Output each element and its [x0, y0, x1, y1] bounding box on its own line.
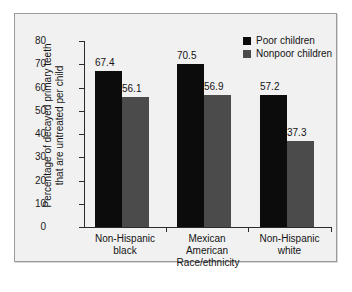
bar-nonpoor-non-hispanic-white[interactable] — [287, 141, 314, 227]
x-category-label-mexican-american: Mexican American — [166, 233, 248, 256]
value-label-nonpoor-non-hispanic-white: 37.3 — [287, 128, 306, 138]
y-axis-title-line-1: Percentage of decayed primary teeth — [42, 31, 54, 221]
x-category-label-non-hispanic-white: Non-Hispanic white — [248, 233, 331, 256]
x-category-line-1: Non-Hispanic — [84, 233, 166, 245]
y-tick-mark-0 — [79, 227, 84, 228]
y-axis-title: Percentage of decayed primary teeth that… — [42, 31, 65, 221]
y-tick-mark-10 — [79, 204, 84, 205]
y-axis-title-line-2: that are untreated per child — [53, 31, 65, 221]
y-tick-mark-30 — [79, 157, 84, 158]
y-tick-mark-40 — [79, 134, 84, 135]
y-tick-mark-60 — [79, 88, 84, 89]
figure: 80 70 60 50 40 30 20 10 0 67.4 56.1 70.5… — [0, 0, 352, 292]
x-tick-mark-2 — [248, 227, 249, 232]
bar-poor-mexican-american[interactable] — [177, 64, 204, 227]
legend-item-poor-children[interactable]: Poor children — [243, 35, 332, 47]
x-category-line-2: white — [248, 245, 331, 257]
bar-poor-non-hispanic-black[interactable] — [95, 71, 122, 227]
x-tick-mark-1 — [166, 227, 167, 232]
value-label-nonpoor-mexican-american: 56.9 — [204, 82, 223, 92]
value-label-poor-non-hispanic-white: 57.2 — [260, 82, 279, 92]
y-tick-mark-70 — [79, 64, 84, 65]
legend-label-poor-children: Poor children — [256, 36, 315, 46]
x-category-line-1: Mexican — [166, 233, 248, 245]
legend-label-nonpoor-children: Nonpoor children — [256, 49, 332, 59]
legend-item-nonpoor-children[interactable]: Nonpoor children — [243, 48, 332, 60]
nonpoor-swatch-icon — [243, 50, 251, 58]
value-label-poor-mexican-american: 70.5 — [177, 51, 196, 61]
y-tick-mark-20 — [79, 181, 84, 182]
poor-swatch-icon — [243, 37, 251, 45]
y-tick-mark-50 — [79, 111, 84, 112]
x-axis-line — [84, 227, 332, 228]
value-label-nonpoor-non-hispanic-black: 56.1 — [122, 84, 141, 94]
y-tick-label-0: 0 — [20, 222, 46, 232]
value-label-poor-non-hispanic-black: 67.4 — [95, 58, 114, 68]
x-axis-title: Race/ethnicity — [84, 257, 332, 268]
x-category-line-1: Non-Hispanic — [248, 233, 331, 245]
y-tick-mark-80 — [79, 41, 84, 42]
bar-poor-non-hispanic-white[interactable] — [260, 95, 287, 227]
x-category-line-2: American — [166, 245, 248, 257]
bar-nonpoor-mexican-american[interactable] — [204, 95, 231, 227]
legend: Poor children Nonpoor children — [243, 35, 332, 61]
chart-panel: 80 70 60 50 40 30 20 10 0 67.4 56.1 70.5… — [14, 13, 337, 262]
x-category-line-2: black — [84, 245, 166, 257]
x-tick-mark-3 — [331, 227, 332, 232]
bar-nonpoor-non-hispanic-black[interactable] — [122, 97, 149, 227]
x-category-label-non-hispanic-black: Non-Hispanic black — [84, 233, 166, 256]
